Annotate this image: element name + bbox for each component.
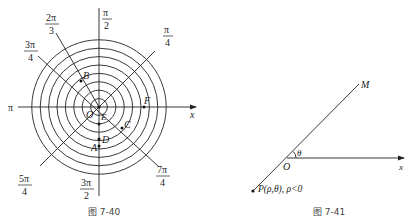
label-f: F [143,95,151,106]
label-3pi-over-2: 3π 2 [80,177,94,201]
label-pi: π [8,102,13,113]
frac-num: π [103,7,108,18]
frac-den: 4 [22,186,27,197]
point-d [98,138,101,141]
frac-num: 2π [46,12,56,23]
label-7pi-over-4: 7π 4 [156,164,170,188]
frac-den: 2 [84,190,89,201]
label-pi-over-2: π 2 [102,7,112,31]
frac-den: 4 [28,52,33,63]
label-o: O [86,109,93,120]
negative-rho-figure [253,84,404,191]
label-5pi-over-4: 5π 4 [18,173,32,197]
label-x-right: x [398,162,403,172]
label-p: P(ρ,θ), ρ<0 [257,184,302,195]
label-a: A [90,142,98,153]
label-d: D [101,134,110,145]
label-3pi-over-4: 3π 4 [24,39,38,63]
label-o-right: O [283,161,290,172]
label-c: C [124,119,131,130]
ray-2pi-over-3 [56,33,99,107]
caption-left: 图 7-40 [88,207,121,217]
label-e: E [100,112,107,122]
label-m: M [360,79,370,90]
frac-den: 4 [160,177,165,188]
frac-num: 7π [157,164,167,175]
point-e-dot [98,123,101,126]
frac-num: 5π [19,173,29,184]
frac-num: 3π [81,177,91,188]
label-b: B [83,70,89,81]
angle-arc-theta [293,152,296,158]
caption-right: 图 7-41 [313,207,345,217]
label-x-left: x [189,109,195,120]
frac-den: 3 [49,25,54,36]
point-a [98,145,101,148]
point-o [97,105,100,108]
frac-num: 3π [25,39,35,50]
diagram-canvas: O B C E D A F x π π 2 2π 3 3π 4 π 4 [0,0,411,221]
frac-den: 2 [104,20,109,31]
label-pi-over-4: π 4 [163,24,173,48]
label-2pi-over-3: 2π 3 [45,12,59,36]
ray-om [253,84,359,191]
frac-den: 4 [165,37,170,48]
point-p [251,189,254,192]
frac-num: π [164,24,169,35]
label-theta: θ [297,148,302,158]
